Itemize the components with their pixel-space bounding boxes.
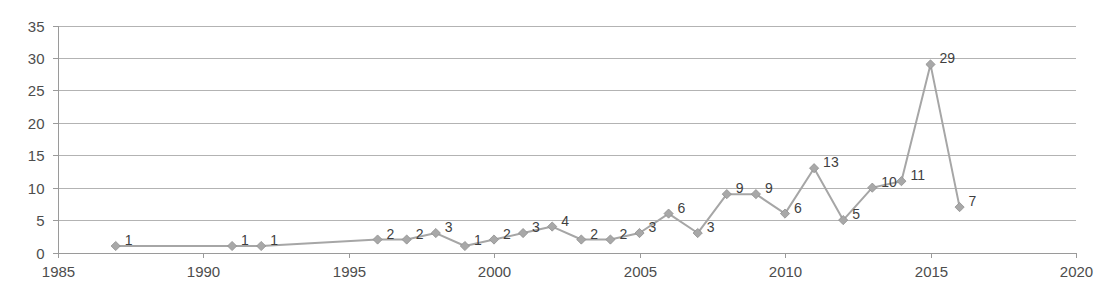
data-point-label: 1 xyxy=(241,232,249,248)
data-point-label: 9 xyxy=(765,180,773,196)
data-point-label: 3 xyxy=(649,219,657,235)
data-point-label: 13 xyxy=(823,154,839,170)
data-point-label: 6 xyxy=(678,200,686,216)
x-axis-tick-label: 1990 xyxy=(187,263,220,280)
data-point-label: 3 xyxy=(445,219,453,235)
data-point-label: 2 xyxy=(416,226,424,242)
data-point-label: 3 xyxy=(532,219,540,235)
data-point-label: 2 xyxy=(503,226,511,242)
line-chart: 05101520253035 1985199019952000200520102… xyxy=(0,0,1108,288)
data-point-label: 1 xyxy=(474,232,482,248)
data-point-marker xyxy=(431,228,440,237)
data-point-label: 9 xyxy=(736,180,744,196)
chart-canvas: 05101520253035 1985199019952000200520102… xyxy=(0,0,1108,288)
data-point-label: 6 xyxy=(794,200,802,216)
data-point-marker xyxy=(606,235,615,244)
data-point-label: 2 xyxy=(387,226,395,242)
data-point-label: 5 xyxy=(852,206,860,222)
data-point-marker xyxy=(257,241,266,250)
data-point-marker xyxy=(373,235,382,244)
data-point-marker xyxy=(489,235,498,244)
y-axis-tick-label: 35 xyxy=(28,18,45,35)
x-axis-tick-label: 1995 xyxy=(333,263,366,280)
x-axis-tick-label: 2010 xyxy=(769,263,802,280)
data-point-marker xyxy=(228,241,237,250)
x-axis-ticks: 19851990199520002005201020152020 xyxy=(42,253,1093,280)
x-axis-tick-label: 2005 xyxy=(624,263,657,280)
data-point-label: 4 xyxy=(561,213,569,229)
x-axis-tick-label: 2015 xyxy=(915,263,948,280)
data-point-label: 7 xyxy=(969,193,977,209)
y-axis-ticks: 05101520253035 xyxy=(28,18,45,262)
data-point-label: 3 xyxy=(707,219,715,235)
x-axis-tick-label: 2020 xyxy=(1060,263,1093,280)
data-point-label: 11 xyxy=(910,167,925,183)
y-axis-tick-label: 0 xyxy=(36,245,44,262)
y-axis-tick-label: 30 xyxy=(28,50,45,67)
y-axis-tick-label: 5 xyxy=(36,212,44,229)
data-point-label: 29 xyxy=(940,50,956,66)
y-axis-tick-label: 15 xyxy=(28,147,45,164)
data-point-label: 2 xyxy=(590,226,598,242)
y-axis-tick-label: 25 xyxy=(28,82,45,99)
data-point-marker xyxy=(111,241,120,250)
data-labels: 1112231234223639961351011297 xyxy=(125,50,977,248)
data-point-marker xyxy=(897,177,906,186)
data-point-marker xyxy=(955,203,964,212)
data-point-marker xyxy=(577,235,586,244)
x-axis-tick-label: 1985 xyxy=(42,263,75,280)
data-point-label: 10 xyxy=(881,174,897,190)
data-point-marker xyxy=(548,222,557,231)
data-point-label: 2 xyxy=(619,226,627,242)
data-point-marker xyxy=(926,60,935,69)
data-point-label: 1 xyxy=(270,232,278,248)
data-point-marker xyxy=(402,235,411,244)
y-axis-tick-label: 20 xyxy=(28,115,45,132)
y-axis-tick-label: 10 xyxy=(28,180,45,197)
data-point-marker xyxy=(519,228,528,237)
data-point-label: 1 xyxy=(125,232,133,248)
x-axis-tick-label: 2000 xyxy=(478,263,511,280)
data-point-marker xyxy=(460,241,469,250)
